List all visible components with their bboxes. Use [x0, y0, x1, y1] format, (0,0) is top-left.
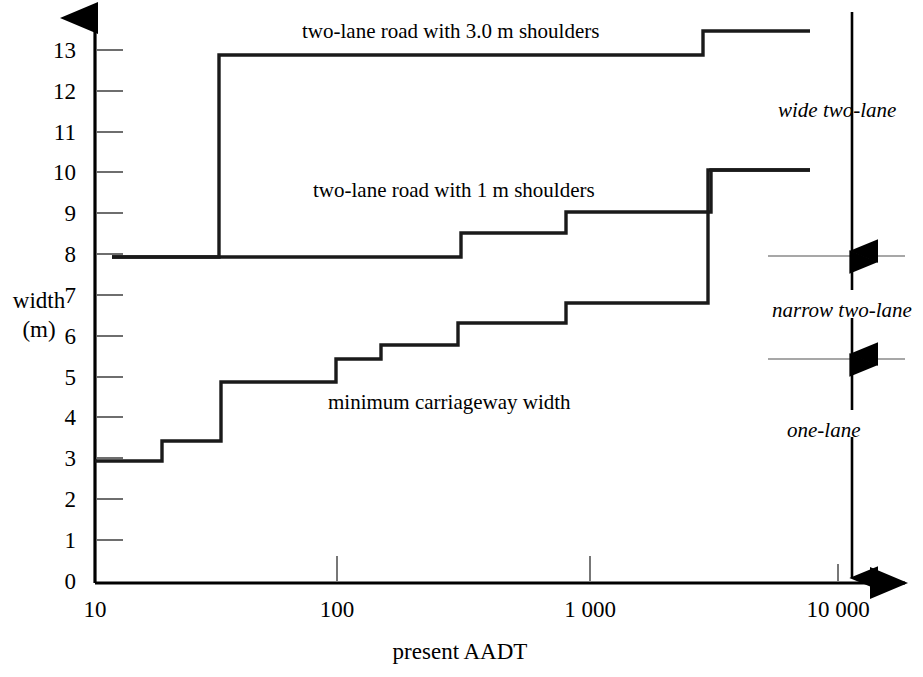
region-label-narrow-two-lane: narrow two-lane	[772, 300, 912, 321]
y-tick-label: 1	[40, 529, 76, 552]
y-tick-label: 4	[40, 406, 76, 429]
region-label-wide-two-lane: wide two-lane	[778, 100, 896, 121]
y-tick-label: 9	[40, 202, 76, 225]
y-tick-label: 13	[40, 39, 76, 62]
x-tick-label: 1 000	[540, 598, 640, 621]
y-tick-label: 2	[40, 488, 76, 511]
series-label-1m-shoulders: two-lane road with 1 m shoulders	[313, 180, 595, 201]
y-tick-label: 8	[40, 243, 76, 266]
y-tick-label: 3	[40, 447, 76, 470]
x-axis-ticks	[337, 556, 838, 581]
y-tick-label: 10	[40, 161, 76, 184]
x-tick-label: 10	[65, 598, 125, 621]
y-tick-label: 5	[40, 366, 76, 389]
x-axis-title: present AADT	[350, 640, 570, 663]
y-tick-label: 11	[40, 121, 76, 144]
y-axis-title-line1: width	[0, 286, 78, 315]
y-axis-title: width (m)	[0, 286, 78, 345]
chart-page: 13 12 11 10 9 8 7 6 5 4 3 2 1 0 width (m…	[0, 0, 923, 677]
y-axis-ticks	[97, 50, 123, 540]
series-label-minimum-carriageway: minimum carriageway width	[328, 392, 571, 413]
x-tick-label: 100	[302, 598, 372, 621]
x-tick-label: 10 000	[778, 598, 898, 621]
region-label-one-lane: one-lane	[787, 420, 860, 441]
series-two-lane-road-3m-shoulders	[112, 31, 810, 257]
y-axis-title-line2: (m)	[0, 315, 78, 344]
y-tick-label: 12	[40, 80, 76, 103]
y-tick-label: 0	[40, 570, 76, 593]
series-label-3m-shoulders: two-lane road with 3.0 m shoulders	[302, 21, 599, 42]
